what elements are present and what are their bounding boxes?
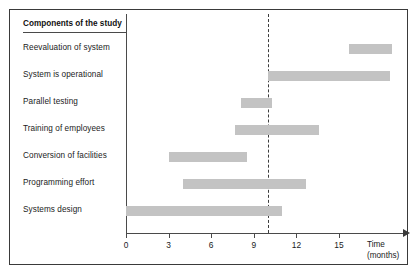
x-axis-tick-label: 9 <box>251 240 256 250</box>
x-axis-tick-label: 12 <box>292 240 301 250</box>
task-label-column: Components of the study Reevaluation of … <box>10 10 126 264</box>
task-label: Training of employees <box>23 124 105 133</box>
task-label: Conversion of facilities <box>23 151 107 160</box>
gantt-bar <box>126 206 282 216</box>
chart-frame: Components of the study Reevaluation of … <box>9 9 408 265</box>
x-axis-title-unit: (months) <box>367 251 399 262</box>
x-axis-tick <box>339 233 340 238</box>
x-axis-tick <box>169 233 170 238</box>
column-header-divider <box>23 32 126 33</box>
gantt-bar <box>169 152 247 162</box>
gantt-bar <box>349 44 392 54</box>
x-axis-tick <box>254 233 255 238</box>
x-axis-tick-label: 3 <box>166 240 171 250</box>
x-axis-title: Time (months) <box>367 240 399 261</box>
gantt-bar <box>235 125 319 135</box>
task-label: Parallel testing <box>23 97 78 106</box>
x-axis-tick <box>126 233 127 238</box>
task-label: System is operational <box>23 70 103 79</box>
task-label: Reevaluation of system <box>23 43 110 52</box>
x-axis-title-main: Time <box>367 240 399 251</box>
x-axis-tick-label: 15 <box>334 240 343 250</box>
x-axis-tick-label: 6 <box>209 240 214 250</box>
x-axis-line <box>126 233 403 234</box>
column-header: Components of the study <box>23 19 122 28</box>
x-axis-arrow-icon <box>403 229 410 237</box>
gantt-bar <box>241 98 272 108</box>
x-axis-tick-label: 0 <box>124 240 129 250</box>
gantt-plot-area: Time (months) 03691215 <box>126 10 407 264</box>
gantt-bar <box>183 179 307 189</box>
x-axis-tick <box>211 233 212 238</box>
gantt-bar <box>268 71 390 81</box>
task-label: Systems design <box>23 205 82 214</box>
x-axis-tick <box>296 233 297 238</box>
task-label: Programming effort <box>23 178 94 187</box>
current-time-marker-line <box>268 14 269 233</box>
